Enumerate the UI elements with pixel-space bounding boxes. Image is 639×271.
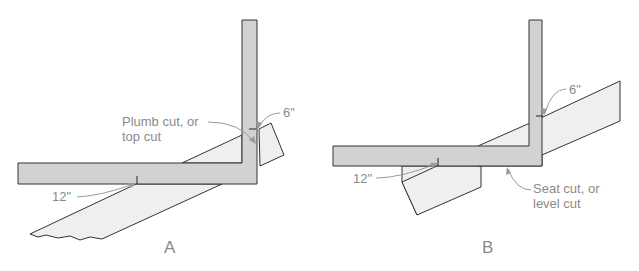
label-cut-a-line1: Plumb cut, or xyxy=(122,114,199,129)
offcut-piece-a xyxy=(259,123,284,166)
label-cut-b-line1: Seat cut, or xyxy=(533,181,600,196)
leader-cut-b xyxy=(508,169,531,190)
rafter-layout-diagram: 12" Plumb cut, or top cut 6" A 12" 6" xyxy=(0,0,639,271)
label-12-a: 12" xyxy=(52,189,71,204)
panel-b: 12" 6" Seat cut, or level cut B xyxy=(333,20,620,257)
label-cut-a-line2: top cut xyxy=(122,129,161,144)
caption-b: B xyxy=(482,238,493,257)
rafter-upper-a xyxy=(182,135,242,163)
label-cut-b-line2: level cut xyxy=(533,196,581,211)
caption-a: A xyxy=(164,238,176,257)
label-12-b: 12" xyxy=(353,171,372,186)
label-6-a: 6" xyxy=(283,105,295,120)
label-6-b: 6" xyxy=(569,82,581,97)
panel-a: 12" Plumb cut, or top cut 6" A xyxy=(18,20,295,257)
